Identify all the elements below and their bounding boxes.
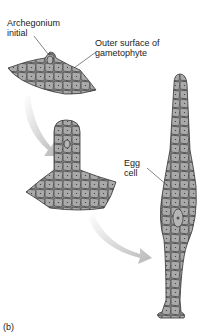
arrow-stage2-to-3 [88, 214, 152, 264]
mature-archegonium [157, 74, 196, 318]
panel-label: (b) [3, 322, 14, 332]
archegonium-initial-cell [47, 56, 53, 64]
outer-surface-label: Outer surface of gametophyte [95, 38, 160, 58]
archegonium-initial-label: Archegonium initial [7, 18, 60, 38]
arrow-stage1-to-2 [24, 96, 58, 156]
archegonium-stage2-cell [64, 140, 70, 148]
egg-cell-label: Egg cell [124, 158, 140, 178]
